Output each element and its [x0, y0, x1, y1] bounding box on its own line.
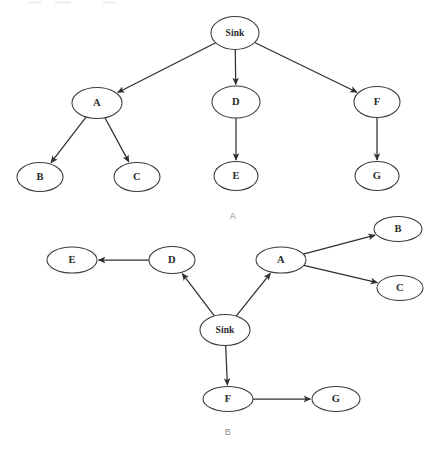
edge-a-to-b: [303, 235, 375, 254]
edge-sink-to-f: [226, 345, 228, 385]
node-sink[interactable]: Sink: [211, 17, 259, 50]
node-label-c: C: [396, 282, 404, 293]
node-label-b: B: [36, 171, 43, 182]
node-e[interactable]: E: [47, 247, 97, 273]
node-b[interactable]: B: [374, 217, 422, 242]
edge-a-to-c: [105, 118, 129, 162]
edge-sink-to-a: [118, 43, 216, 93]
node-d[interactable]: D: [149, 247, 195, 274]
node-label-f: F: [374, 96, 381, 107]
node-e[interactable]: E: [214, 162, 258, 191]
edge-a-to-c: [304, 265, 378, 282]
figure-root: SinkADFBCEGA SinkDEABCFGB: [0, 0, 441, 457]
edge-sink-to-d: [182, 274, 214, 316]
diagram-canvas: SinkADFBCEGA SinkDEABCFGB: [0, 0, 441, 457]
node-label-sink: Sink: [216, 325, 236, 335]
node-label-d: D: [168, 254, 176, 265]
node-label-g: G: [373, 170, 381, 181]
node-label-a: A: [277, 254, 285, 265]
node-b[interactable]: B: [17, 163, 63, 192]
panel-b-diagram: SinkDEABCFGB: [47, 217, 423, 438]
node-a[interactable]: A: [72, 88, 122, 119]
node-f[interactable]: F: [354, 87, 400, 118]
node-a[interactable]: A: [256, 247, 306, 273]
node-label-e: E: [68, 254, 75, 265]
node-label-d: D: [232, 96, 240, 107]
node-sink[interactable]: Sink: [200, 315, 250, 346]
panel-a-diagram: SinkADFBCEGA: [17, 17, 400, 222]
node-c[interactable]: C: [114, 163, 160, 192]
edge-sink-to-d: [235, 50, 236, 85]
node-d[interactable]: D: [212, 86, 260, 118]
node-g[interactable]: G: [312, 387, 360, 412]
edge-sink-to-a: [236, 273, 270, 316]
node-label-g: G: [332, 393, 340, 404]
panel-caption-panel-b: B: [225, 427, 232, 437]
panel-caption-panel-a: A: [230, 211, 237, 221]
node-c[interactable]: C: [377, 276, 423, 301]
edge-sink-to-f: [255, 43, 357, 93]
node-label-a: A: [93, 97, 101, 108]
edge-a-to-b: [51, 117, 86, 163]
node-g[interactable]: G: [355, 162, 399, 191]
scan-artifacts: [28, 1, 116, 4]
node-label-b: B: [394, 223, 401, 234]
node-label-e: E: [232, 170, 239, 181]
node-label-sink: Sink: [226, 28, 246, 38]
node-f[interactable]: F: [203, 387, 253, 412]
node-label-c: C: [133, 171, 141, 182]
node-label-f: F: [225, 393, 232, 404]
